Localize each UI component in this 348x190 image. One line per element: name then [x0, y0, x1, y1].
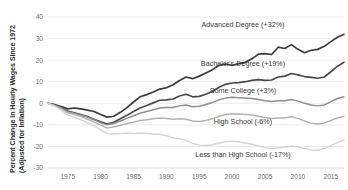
y-axis-title-line-1: Percent Change in Hourly Wages Since 197… [9, 25, 17, 173]
x-tick-label: 1980 [93, 173, 108, 180]
chart-canvas: 403020100-10-20-30 197519801985199019952… [0, 0, 348, 190]
gridlines-group [48, 17, 344, 168]
wage-change-line-chart: 403020100-10-20-30 197519801985199019952… [0, 0, 348, 190]
series-label-advanced-degree: Advanced Degree (+32%) [202, 20, 285, 29]
series-label-bachelor-s-degree: Bachelor's Degree (+19%) [201, 59, 285, 68]
series-label-less-than-high-school: Less than High School (-17%) [195, 150, 290, 159]
x-tick-label: 2005 [258, 173, 273, 180]
y-tick-label: 10 [36, 78, 44, 85]
y-tick-label: 40 [36, 13, 44, 20]
x-tick-label: 1990 [159, 173, 174, 180]
x-tick-label: 2010 [291, 173, 306, 180]
y-tick-label: -30 [33, 164, 43, 171]
series-label-some-college: Some College (+3%) [210, 86, 277, 95]
x-tick-label: 1985 [126, 173, 141, 180]
y-tick-label: 0 [39, 100, 43, 107]
series-annotations-group: Advanced Degree (+32%)Bachelor's Degree … [195, 20, 290, 159]
y-axis-title: Percent Change in Hourly Wages Since 197… [9, 25, 26, 173]
y-axis-tick-labels: 403020100-10-20-30 [33, 13, 43, 171]
series-label-high-school: High School (-6%) [214, 117, 272, 126]
x-axis-tick-labels: 197519801985199019952000200520102015 [60, 173, 338, 180]
x-tick-label: 2015 [324, 173, 339, 180]
y-tick-label: -10 [33, 121, 43, 128]
y-axis-title-line-2: (Adjusted for Inflation) [18, 97, 26, 173]
x-tick-label: 2000 [225, 173, 240, 180]
data-series-group [48, 34, 344, 150]
y-tick-label: -20 [33, 143, 43, 150]
x-tick-label: 1995 [192, 173, 207, 180]
y-tick-label: 30 [36, 35, 44, 42]
y-tick-label: 20 [36, 57, 44, 64]
x-tick-label: 1975 [60, 173, 75, 180]
series-line-bachelor-s-degree [48, 62, 344, 124]
